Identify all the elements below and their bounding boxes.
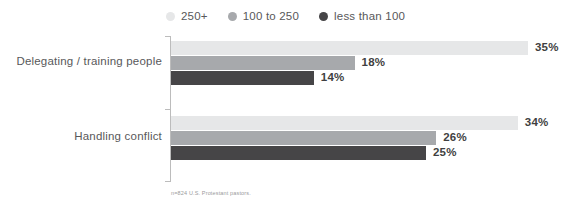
bar-row: 34% bbox=[171, 116, 548, 130]
legend-label: less than 100 bbox=[334, 11, 405, 23]
axis-tick-middle bbox=[165, 109, 171, 110]
bar-value-label: 18% bbox=[362, 57, 386, 69]
bar-row: 18% bbox=[171, 56, 385, 70]
legend-item-less-than-100: less than 100 bbox=[319, 11, 405, 23]
bar-value-label: 14% bbox=[321, 72, 345, 84]
legend-item-250-plus: 250+ bbox=[166, 11, 208, 23]
bar-less-than-100 bbox=[171, 146, 426, 160]
grouped-bar-chart: 250+ 100 to 250 less than 100 Delegating… bbox=[0, 0, 575, 214]
legend-label: 250+ bbox=[181, 11, 208, 23]
bar-250-plus bbox=[171, 41, 528, 55]
category-label: Handling conflict bbox=[0, 130, 162, 144]
bar-250-plus bbox=[171, 116, 518, 130]
bar-100-to-250 bbox=[171, 56, 355, 70]
bar-less-than-100 bbox=[171, 71, 314, 85]
legend-label: 100 to 250 bbox=[243, 11, 299, 23]
plot-area: Delegating / training people 35% 18% 14%… bbox=[0, 34, 575, 184]
legend-swatch-circle-icon bbox=[166, 12, 175, 21]
bar-value-label: 26% bbox=[443, 132, 467, 144]
chart-legend: 250+ 100 to 250 less than 100 bbox=[166, 11, 405, 23]
legend-swatch-circle-icon bbox=[319, 12, 328, 21]
axis-tick-top bbox=[165, 36, 171, 37]
legend-item-100-to-250: 100 to 250 bbox=[228, 11, 299, 23]
bar-row: 35% bbox=[171, 41, 559, 55]
bar-100-to-250 bbox=[171, 131, 436, 145]
legend-swatch-circle-icon bbox=[228, 12, 237, 21]
category-label: Delegating / training people bbox=[0, 55, 162, 69]
bar-row: 25% bbox=[171, 146, 457, 160]
bar-value-label: 35% bbox=[535, 42, 559, 54]
bar-row: 26% bbox=[171, 131, 467, 145]
bar-value-label: 34% bbox=[525, 117, 549, 129]
bar-value-label: 25% bbox=[433, 147, 457, 159]
chart-footnote: n=824 U.S. Protestant pastors. bbox=[171, 190, 251, 196]
axis-tick-bottom bbox=[165, 181, 171, 182]
bar-row: 14% bbox=[171, 71, 344, 85]
